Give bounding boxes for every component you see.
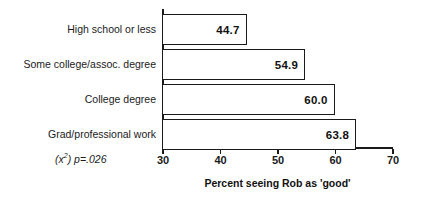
category-axis-labels: High school or less Some college/assoc. … (0, 9, 156, 148)
p-value-text: ) p=.026 (68, 153, 107, 165)
chi-square-p-value-annotation: (x2) p=.026 (55, 152, 106, 165)
bar-value-high-school: 44.7 (216, 24, 239, 36)
bar-grad-work: 63.8 (162, 119, 356, 150)
bar-high-school: 44.7 (162, 14, 247, 45)
category-label-grad-work: Grad/professional work (0, 128, 156, 140)
chi-square-symbol: (x (55, 153, 64, 165)
bar-chart: High school or less Some college/assoc. … (0, 0, 425, 201)
bar-value-grad-work: 63.8 (326, 129, 349, 141)
x-tick-label-60: 60 (316, 154, 356, 166)
x-tick-label-50: 50 (258, 154, 298, 166)
bar-value-college-degree: 60.0 (304, 94, 327, 106)
x-axis-title: Percent seeing Rob as 'good' (162, 177, 393, 189)
x-tick-label-40: 40 (201, 154, 241, 166)
bar-some-college: 54.9 (162, 49, 305, 80)
category-label-high-school: High school or less (0, 23, 156, 35)
plot-area: 44.7 54.9 60.0 63.8 (162, 9, 392, 148)
category-label-college-degree: College degree (0, 93, 156, 105)
x-tick-label-70: 70 (373, 154, 413, 166)
x-tick-label-30: 30 (143, 154, 183, 166)
bar-college-degree: 60.0 (162, 84, 335, 115)
category-label-some-college: Some college/assoc. degree (0, 58, 156, 70)
bar-value-some-college: 54.9 (275, 59, 298, 71)
